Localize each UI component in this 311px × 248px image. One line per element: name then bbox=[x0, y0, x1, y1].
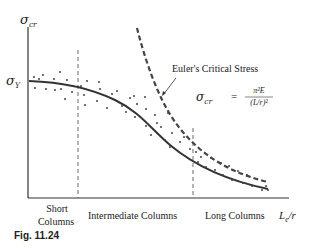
formula-lhs: σcr bbox=[196, 91, 212, 106]
long-columns-label: Long Columns bbox=[205, 211, 265, 221]
formula-equals: = bbox=[231, 91, 237, 102]
yield-stress-symbol: σ bbox=[6, 73, 15, 88]
euler-critical-stress-label: Euler's Critical Stress bbox=[172, 64, 258, 74]
y-axis-label-sub: cr bbox=[29, 20, 37, 29]
yield-stress-label: σY bbox=[6, 74, 20, 90]
y-axis-label-symbol: σ bbox=[20, 12, 29, 27]
yield-stress-sub: Y bbox=[15, 81, 20, 90]
intermediate-columns-label: Intermediate Columns bbox=[88, 211, 177, 221]
short-columns-label-line1: Short bbox=[35, 204, 79, 214]
x-axis-label: Le/r bbox=[279, 210, 296, 224]
figure-caption: Fig. 11.24 bbox=[14, 230, 59, 241]
y-axis-label: σcr bbox=[20, 13, 37, 29]
x-axis-label-suffix: /r bbox=[288, 209, 295, 221]
short-columns-label-line2: Columns bbox=[31, 217, 81, 227]
test-data-points bbox=[33, 71, 269, 191]
formula-sigma: σ bbox=[196, 90, 204, 104]
formula-numerator: π²E bbox=[245, 87, 273, 95]
formula-sub: cr bbox=[204, 97, 212, 106]
formula-denominator: (L/r)² bbox=[245, 99, 273, 107]
